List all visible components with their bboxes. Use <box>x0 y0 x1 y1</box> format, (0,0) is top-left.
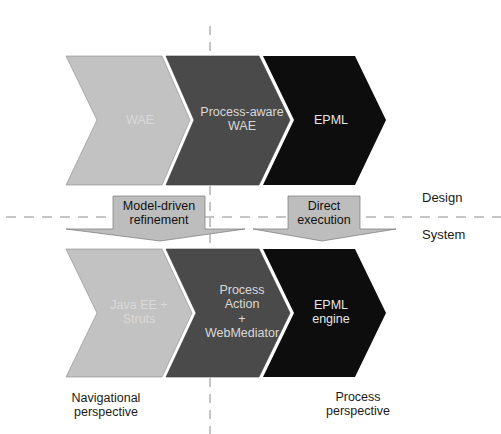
layer-label-system: System <box>422 228 465 243</box>
chevron-label-java-ee-struts: Java EE + Struts <box>103 298 175 327</box>
transition-label-direct-execution: Direct execution <box>288 199 360 228</box>
perspective-label-navigational: Navigational perspective <box>66 391 146 420</box>
diagram-canvas <box>0 0 501 434</box>
perspective-label-process: Process perspective <box>318 390 398 419</box>
chevron-label-epml-engine: EPML engine <box>295 298 367 327</box>
chevron-label-process-action-webmediator: Process Action + WebMediator <box>196 283 288 341</box>
chevron-label-process-aware-wae: Process-aware WAE <box>196 105 288 134</box>
layer-label-design: Design <box>422 191 462 206</box>
transition-label-model-driven: Model-driven refinement <box>113 199 205 228</box>
chevron-label-wae: WAE <box>105 113 175 127</box>
chevron-label-epml: EPML <box>295 113 367 127</box>
